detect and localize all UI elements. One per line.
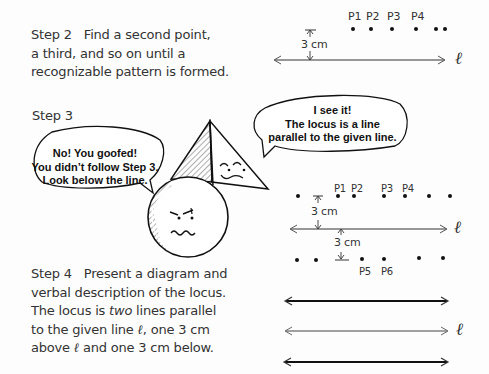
point-label-p2: P2 (366, 8, 379, 27)
cartoon-characters (148, 121, 268, 257)
point-label-p4: P4 (411, 8, 424, 27)
distance-label-upper: 3 cm (311, 203, 337, 222)
distance-label: 3 cm (301, 36, 327, 55)
line-symbol-label: ℓ (456, 320, 463, 339)
speech-left-line-1: No! You goofed! (30, 147, 160, 161)
point-label-p5: P5 (359, 263, 371, 282)
line-symbol-label: ℓ (454, 218, 461, 237)
speech-left-line-3: Look below the line. (30, 174, 160, 188)
point-label-p3: P3 (387, 8, 400, 27)
point-label-p2: P2 (351, 180, 363, 199)
point-label-p3: P3 (381, 180, 393, 199)
point-label-p1: P1 (334, 180, 346, 199)
line-symbol-label: ℓ (455, 49, 462, 68)
speech-left-line-2: You didn’t follow Step 3. (30, 161, 160, 175)
point-label-p1: P1 (348, 8, 361, 27)
point-label-p4: P4 (402, 180, 414, 199)
speech-right-text: I see it! The locus is a line parallel t… (255, 104, 410, 145)
step4-diagram (284, 297, 448, 366)
speech-right-line-1: I see it! (255, 104, 410, 118)
speech-right-line-2: The locus is a line (255, 118, 410, 132)
distance-label-lower: 3 cm (334, 234, 360, 253)
speech-left-text: No! You goofed! You didn’t follow Step 3… (30, 147, 160, 188)
point-label-p6: P6 (381, 263, 393, 282)
step2-diagram (274, 27, 447, 64)
speech-right-line-3: parallel to the given line. (255, 131, 410, 145)
